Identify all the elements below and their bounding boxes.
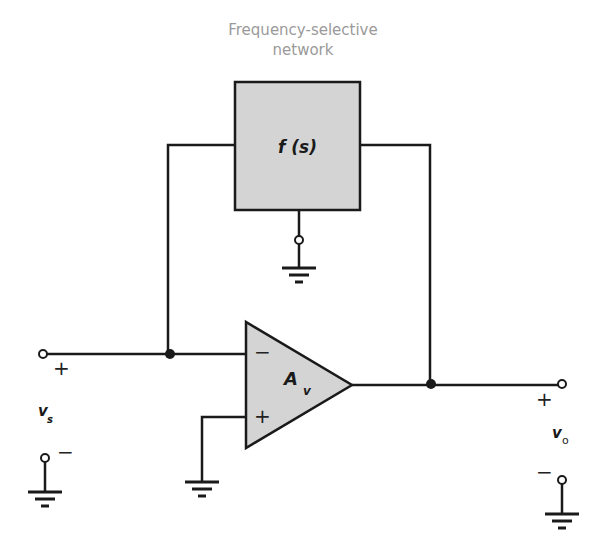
network-block-label: f (s): [278, 137, 317, 157]
amp-gain-subscript: v: [303, 384, 311, 398]
inverting-input-sign: −: [254, 342, 271, 362]
ground-icon: [185, 482, 219, 496]
output-minus-sign: −: [536, 462, 553, 482]
input-plus-sign: +: [53, 358, 70, 378]
output-ground-terminal: [558, 476, 566, 484]
input-junction: [165, 349, 175, 359]
input-terminal: [39, 350, 47, 358]
circuit-schematic: [0, 0, 606, 556]
output-terminal: [558, 380, 566, 388]
feedback-wire-left: [168, 145, 235, 354]
input-ground-terminal: [41, 454, 49, 462]
noninverting-ground-wire: [202, 417, 246, 482]
ground-icon: [28, 492, 62, 506]
network-caption-line2: network: [0, 40, 606, 60]
network-caption-line1: Frequency-selective: [0, 20, 606, 40]
ground-icon: [545, 514, 579, 528]
output-junction: [426, 379, 436, 389]
output-voltage-label: v: [552, 424, 562, 442]
input-voltage-subscript: s: [47, 414, 53, 425]
block-ground-terminal: [295, 236, 303, 244]
feedback-wire-right: [360, 145, 430, 384]
ground-icon: [282, 268, 316, 282]
output-voltage-subscript: o: [562, 434, 569, 447]
noninverting-input-sign: +: [254, 406, 271, 426]
output-plus-sign: +: [536, 389, 553, 409]
input-minus-sign: −: [57, 442, 74, 462]
amp-gain-label: A: [284, 368, 298, 389]
